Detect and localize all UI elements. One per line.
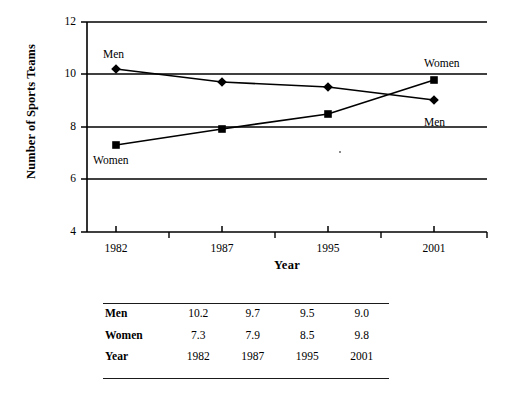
ytick-label-6: 6 xyxy=(50,173,76,185)
datapoint-men-2001 xyxy=(429,95,439,105)
series-label-women-right: Women xyxy=(424,58,459,70)
table-cell-women-1982: 7.3 xyxy=(171,325,226,347)
series-label-women-left: Women xyxy=(93,155,128,167)
table-row: Year 1982 1987 1995 2001 xyxy=(103,346,389,368)
ytick-label-8: 8 xyxy=(50,121,76,133)
table-cell-men-2001: 9.0 xyxy=(335,303,390,325)
table-cell-women-1987: 7.9 xyxy=(226,325,281,347)
table-row: Women 7.3 7.9 8.5 9.8 xyxy=(103,325,389,347)
datapoint-men-1995 xyxy=(323,82,333,92)
y-axis-title: Number of Sports Teams xyxy=(24,17,39,207)
datapoint-women-1982 xyxy=(112,141,120,149)
table-cell-year-2: 1987 xyxy=(226,346,281,368)
data-table: Men 10.2 9.7 9.5 9.0 Women 7.3 7.9 8.5 9… xyxy=(103,303,389,368)
table-cell-men-1995: 9.5 xyxy=(280,303,335,325)
table-rowhead-women: Women xyxy=(103,325,171,347)
datapoint-women-2001 xyxy=(430,76,438,84)
series-line-women xyxy=(116,80,434,145)
table-cell-women-2001: 9.8 xyxy=(335,325,390,347)
ytick-label-12: 12 xyxy=(50,16,76,28)
xtick-label-1987: 1987 xyxy=(192,243,252,255)
datapoint-women-1987 xyxy=(218,125,226,133)
table-cell-year-1: 1982 xyxy=(171,346,226,368)
table-rowhead-men: Men xyxy=(103,303,171,325)
xtick-label-2001: 2001 xyxy=(404,243,464,255)
datapoint-women-1995 xyxy=(324,110,332,118)
table-rule-bottom xyxy=(103,378,389,379)
xtick-label-1982: 1982 xyxy=(86,243,146,255)
table-cell-women-1995: 8.5 xyxy=(280,325,335,347)
datapoint-men-1987 xyxy=(217,77,227,87)
sports-teams-figure: 12 10 8 6 4 1982 1987 1995 2001 Number o… xyxy=(0,0,514,407)
table-cell-men-1982: 10.2 xyxy=(171,303,226,325)
table-cell-men-1987: 9.7 xyxy=(226,303,281,325)
table-rowhead-year: Year xyxy=(103,346,171,368)
table-cell-year-4: 2001 xyxy=(335,346,390,368)
ytick-label-10: 10 xyxy=(50,68,76,80)
xtick-label-1995: 1995 xyxy=(298,243,358,255)
ytick-label-4: 4 xyxy=(50,226,76,238)
table-cell-year-3: 1995 xyxy=(280,346,335,368)
line-chart: 12 10 8 6 4 1982 1987 1995 2001 Number o… xyxy=(0,0,514,290)
series-label-men-left: Men xyxy=(103,49,124,61)
series-label-men-right: Men xyxy=(424,117,445,129)
datapoint-men-1982 xyxy=(111,64,121,74)
x-axis-title: Year xyxy=(87,258,487,273)
scan-speck xyxy=(339,151,341,153)
table-row: Men 10.2 9.7 9.5 9.0 xyxy=(103,303,389,325)
